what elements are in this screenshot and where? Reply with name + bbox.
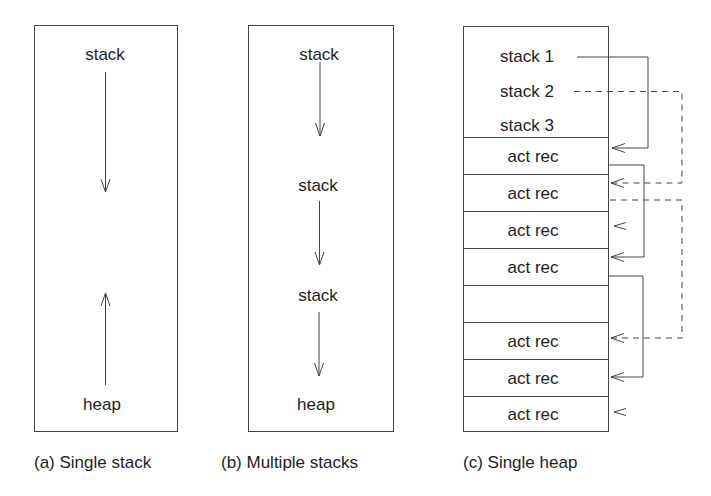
panel-a-caption: (a) Single stack [34, 453, 151, 473]
stack1-pointer [577, 57, 648, 148]
panel-c-caption: (c) Single heap [463, 453, 577, 473]
arrowhead-left-icon [614, 409, 626, 416]
diagram-canvas [0, 0, 711, 496]
panel-b-stack1-label: stack [299, 45, 339, 65]
panel-b-graphics [249, 26, 394, 432]
panel-b-heap-label: heap [297, 395, 335, 415]
panel-c-stack3-label: stack 3 [500, 116, 554, 136]
activation-record-cell: act rec [507, 332, 558, 352]
panel-b-stack3-label: stack [298, 286, 338, 306]
activation-record-cell: act rec [507, 147, 558, 167]
panel-b-caption: (b) Multiple stacks [221, 453, 358, 473]
panel-a-heap-label: heap [83, 395, 121, 415]
panel-a-stack-label: stack [85, 45, 125, 65]
link-pointer [608, 276, 643, 377]
activation-record-cell: act rec [507, 369, 558, 389]
activation-record-cell: act rec [507, 258, 558, 278]
panel-b-stack2-label: stack [298, 176, 338, 196]
activation-record-cell: act rec [507, 405, 558, 425]
panel-a-graphics [35, 26, 178, 432]
link-pointer-dashed [610, 200, 682, 338]
arrowhead-left-icon [614, 223, 626, 230]
panel-c-graphics [464, 27, 683, 432]
activation-record-cell: act rec [507, 221, 558, 241]
panel-c-stack1-label: stack 1 [500, 47, 554, 67]
panel-c-stack2-label: stack 2 [500, 82, 554, 102]
activation-record-cell: act rec [507, 184, 558, 204]
link-pointer [608, 165, 644, 257]
